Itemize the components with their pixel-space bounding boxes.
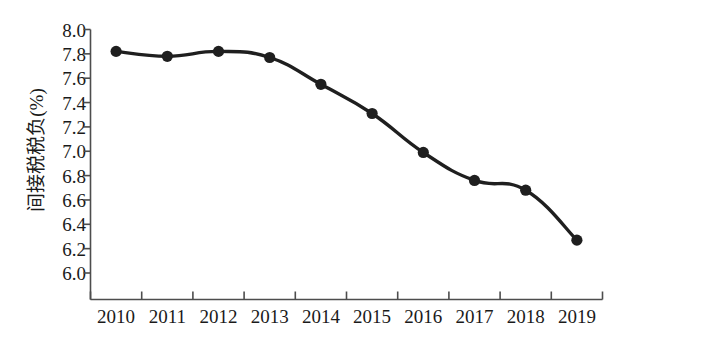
data-point-marker bbox=[571, 235, 582, 246]
data-point-marker bbox=[520, 185, 531, 196]
y-axis-ticks bbox=[84, 30, 91, 274]
data-point-marker bbox=[367, 108, 378, 119]
data-point-marker bbox=[162, 51, 173, 62]
data-point-marker bbox=[469, 175, 480, 186]
data-point-marker bbox=[264, 52, 275, 63]
data-point-marker bbox=[213, 46, 224, 57]
data-point-marker bbox=[315, 79, 326, 90]
series-line bbox=[116, 51, 577, 240]
data-point-marker bbox=[418, 147, 429, 158]
x-axis-ticks bbox=[91, 292, 603, 300]
data-point-marker bbox=[111, 46, 122, 57]
axis-lines bbox=[91, 30, 603, 300]
chart-figure: 间接税税负(%) 6.06.26.46.66.87.07.27.47.67.88… bbox=[0, 0, 706, 353]
plot-area bbox=[0, 0, 706, 353]
series-markers bbox=[111, 46, 583, 246]
